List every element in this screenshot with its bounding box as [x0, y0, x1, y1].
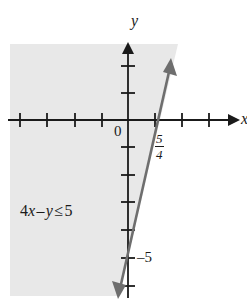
y-intercept-label: –5	[137, 250, 152, 265]
inequality-graph-figure: y x 0 5 4 –5 4x – y ≤ 5	[0, 0, 247, 306]
fraction-denominator: 4	[155, 147, 164, 161]
origin-label: 0	[114, 124, 122, 139]
graph-canvas	[0, 0, 247, 306]
fraction-numerator: 5	[155, 132, 164, 147]
x-intercept-fraction-label: 5 4	[155, 132, 164, 161]
inequality-annotation: 4x – y ≤ 5	[20, 203, 72, 219]
inequality-variable-x: x	[28, 202, 35, 219]
y-axis-label: y	[131, 13, 138, 29]
x-axis-label: x	[241, 111, 247, 127]
inequality-right-side: 5	[64, 202, 72, 219]
inequality-variable-y: y	[46, 202, 53, 219]
inequality-relation-sign: ≤	[54, 202, 63, 219]
inequality-coefficient: 4	[20, 202, 28, 219]
inequality-minus-sign: –	[36, 202, 44, 219]
shaded-solution-region	[10, 44, 178, 296]
